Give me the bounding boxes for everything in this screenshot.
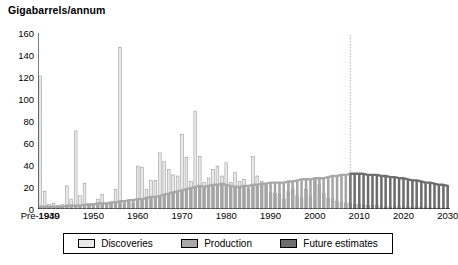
y-tick-label: 140 (0, 50, 34, 61)
x-tick-label: 1970 (171, 210, 192, 221)
x-tick-label: 2010 (349, 210, 370, 221)
future-estimate-bar (420, 182, 422, 210)
production-bar (247, 186, 249, 209)
production-bar (137, 199, 139, 209)
production-bar (221, 184, 223, 209)
x-tick-label: 1940 (38, 210, 59, 221)
future-estimate-bar (407, 179, 409, 209)
x-tick-label: 1960 (127, 210, 148, 221)
future-estimate-bar (434, 184, 436, 209)
future-estimate-bar (385, 176, 387, 209)
y-tick-label: 120 (0, 72, 34, 83)
x-tick-label: 1980 (216, 210, 237, 221)
production-bar (292, 182, 294, 210)
production-bar (225, 185, 227, 209)
x-tick-label: 1950 (83, 210, 104, 221)
production-bar (154, 197, 156, 209)
discovery-bar (119, 47, 122, 209)
production-bar (172, 193, 174, 210)
production-bar (203, 187, 205, 209)
future-estimate-bar (376, 175, 378, 209)
x-tick-label: 2000 (304, 210, 325, 221)
production-bar (163, 195, 165, 209)
production-bar (230, 186, 232, 209)
x-tick-label: 2020 (393, 210, 414, 221)
future-estimate-bar (354, 174, 356, 209)
legend-swatch-production (181, 239, 198, 248)
production-bar (216, 185, 218, 209)
production-bar (309, 179, 311, 209)
production-bar (283, 183, 285, 209)
production-bar (146, 198, 148, 209)
production-bar (190, 188, 192, 209)
legend-swatch-future-estimates (280, 239, 297, 248)
y-tick-label: 60 (0, 138, 34, 149)
future-estimate-bar (389, 177, 391, 209)
production-bar (256, 185, 258, 209)
production-bar (314, 178, 316, 209)
legend-item-production: Production (181, 238, 252, 249)
future-estimate-bar (425, 183, 427, 209)
production-bar (194, 187, 196, 209)
y-axis: 020406080100120140160 (0, 25, 34, 217)
production-bar (305, 179, 307, 209)
future-estimate-bar (438, 185, 440, 209)
production-bar (177, 191, 179, 209)
production-bar (168, 194, 170, 209)
production-bar (301, 179, 303, 209)
legend-item-discoveries: Discoveries (78, 238, 153, 249)
production-bar (141, 199, 143, 209)
production-bar (323, 178, 325, 209)
future-estimate-bar (416, 180, 418, 209)
production-bar (199, 186, 201, 209)
production-bar (332, 176, 334, 209)
production-bar (252, 185, 254, 209)
future-estimate-bar (380, 176, 382, 209)
production-bar (212, 185, 214, 209)
future-estimate-bar (367, 175, 369, 209)
discovery-bar (74, 131, 77, 209)
legend-label-production: Production (204, 238, 252, 249)
future-estimate-bar (358, 174, 360, 209)
production-bar (336, 176, 338, 209)
production-bar (340, 175, 342, 209)
plot-svg (38, 33, 450, 209)
chart-legend: DiscoveriesProductionFuture estimates (63, 233, 393, 254)
future-estimate-bar (371, 175, 373, 209)
discovery-bar (39, 76, 42, 209)
production-bar (239, 187, 241, 209)
legend-item-future-estimates: Future estimates (280, 238, 377, 249)
production-bar (270, 183, 272, 209)
y-tick-label: 20 (0, 182, 34, 193)
production-bar (181, 190, 183, 209)
y-tick-label: 160 (0, 28, 34, 39)
future-estimate-bar (442, 185, 444, 209)
production-bar (243, 186, 245, 209)
future-estimate-bar (447, 186, 449, 209)
legend-label-future-estimates: Future estimates (303, 238, 377, 249)
production-bar (159, 196, 161, 209)
production-bar (261, 184, 263, 209)
oil-discoveries-production-chart: Gigabarrels/annum 020406080100120140160 … (0, 0, 458, 265)
production-bar (318, 178, 320, 209)
production-bar (287, 182, 289, 210)
y-tick-label: 80 (0, 116, 34, 127)
future-estimate-bar (429, 183, 431, 209)
legend-swatch-discoveries (78, 239, 95, 248)
x-axis: Pre-193919401950196019701980199020002010… (0, 210, 458, 226)
x-tick-label: 2030 (437, 210, 458, 221)
production-bar (296, 180, 298, 209)
production-bar (345, 175, 347, 209)
plot-area (38, 33, 450, 209)
y-tick-label: 100 (0, 94, 34, 105)
chart-title: Gigabarrels/annum (8, 4, 105, 16)
production-bar (208, 186, 210, 209)
production-bar (327, 177, 329, 209)
production-bar (234, 187, 236, 209)
future-estimate-bar (411, 180, 413, 209)
future-estimate-bar (363, 174, 365, 209)
future-estimate-bar (394, 177, 396, 209)
y-tick-label: 40 (0, 160, 34, 171)
production-bar (132, 200, 134, 209)
future-estimate-bar (403, 178, 405, 209)
